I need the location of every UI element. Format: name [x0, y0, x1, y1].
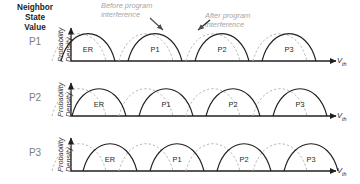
state-label-P2-row1: P2 [217, 45, 226, 54]
annotation-arrows [150, 18, 210, 30]
state-label-P3-row2: P3 [295, 100, 304, 109]
state-label-ER-row3: ER [105, 155, 115, 164]
state-label-ER-row2: ER [94, 100, 104, 109]
state-label-P2-row3: P2 [239, 155, 248, 164]
x-axis-label-row3: Vth [337, 166, 347, 177]
state-label-P3-row1: P3 [284, 45, 293, 54]
curve-before-P1-row1 [119, 34, 173, 61]
x-axis-label-row1: Vth [337, 56, 347, 67]
state-label-P1-row3: P1 [172, 155, 181, 164]
curve-before-P3-row1 [253, 34, 307, 61]
distribution-plots: ERP1P2P3ERP1P2P3ERP1P2P3 [0, 0, 360, 184]
state-label-P2-row2: P2 [228, 100, 237, 109]
figure-root: Neighbor State Value P1 P2 P3 Before pro… [0, 0, 360, 184]
x-axis-label-row2: Vth [337, 111, 347, 122]
state-label-P1-row1: P1 [150, 45, 159, 54]
state-label-P1-row2: P1 [161, 100, 170, 109]
state-label-ER-row1: ER [83, 45, 93, 54]
curve-before-P2-row1 [186, 34, 240, 61]
state-label-P3-row3: P3 [306, 155, 315, 164]
curve-before-ER-row1 [52, 34, 106, 61]
